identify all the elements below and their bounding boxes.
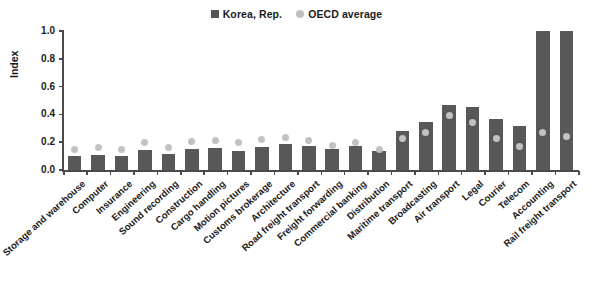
bar-korea <box>91 155 105 170</box>
dot-oecd-average <box>329 142 336 149</box>
bar-korea <box>325 149 339 170</box>
bar-korea <box>138 150 152 170</box>
bar-korea <box>560 31 574 170</box>
x-axis-tick <box>86 171 88 175</box>
x-axis-tick <box>438 171 440 175</box>
x-axis-tick <box>531 171 533 175</box>
legend-label-korea: Korea, Rep. <box>223 8 282 20</box>
chart-legend: Korea, Rep. OECD average <box>0 8 593 20</box>
x-axis-tick <box>461 171 463 175</box>
dot-oecd-average <box>446 112 453 119</box>
dot-oecd-average <box>165 144 172 151</box>
x-axis-tick <box>133 171 135 175</box>
y-axis-tick-label: 0.4 <box>21 108 55 119</box>
bar-korea <box>208 148 222 170</box>
legend-item-korea: Korea, Rep. <box>211 8 282 20</box>
plot-area <box>63 31 578 170</box>
dot-oecd-average <box>71 146 78 153</box>
bar-korea <box>162 154 176 170</box>
x-axis-tick <box>157 171 159 175</box>
dot-oecd-average <box>282 134 289 141</box>
x-axis-tick <box>203 171 205 175</box>
bar-korea <box>302 146 316 170</box>
y-axis-title: Index <box>8 51 20 78</box>
bar-korea <box>349 146 363 170</box>
y-axis-tick-label: 0.0 <box>21 164 55 175</box>
bar-korea <box>466 107 480 170</box>
y-axis-tick-label: 0.8 <box>21 53 55 64</box>
y-axis-tick-label: 0.6 <box>21 81 55 92</box>
x-axis-tick <box>414 171 416 175</box>
dot-oecd-average <box>141 139 148 146</box>
legend-item-oecd: OECD average <box>296 8 382 20</box>
dot-oecd-average <box>305 137 312 144</box>
x-axis-tick <box>344 171 346 175</box>
x-axis-tick <box>484 171 486 175</box>
bar-korea <box>489 119 503 170</box>
dot-oecd-average <box>188 138 195 145</box>
x-axis-tick <box>321 171 323 175</box>
y-axis-tick-label: 1.0 <box>21 25 55 36</box>
bar-korea <box>279 144 293 170</box>
x-axis-tick <box>250 171 252 175</box>
x-axis-tick <box>274 171 276 175</box>
x-axis-tick <box>297 171 299 175</box>
y-axis-tick-label: 0.2 <box>21 136 55 147</box>
bar-korea <box>232 151 246 170</box>
bar-korea <box>372 151 386 170</box>
bar-korea <box>185 149 199 170</box>
x-axis-tick <box>180 171 182 175</box>
dot-oecd-average <box>212 137 219 144</box>
legend-label-oecd: OECD average <box>308 8 382 20</box>
dot-oecd-average <box>516 143 523 150</box>
dot-oecd-average <box>352 139 359 146</box>
x-axis-tick <box>578 171 580 175</box>
x-axis-tick <box>227 171 229 175</box>
dot-oecd-average <box>118 146 125 153</box>
dot-oecd-average <box>258 136 265 143</box>
bar-korea <box>255 147 269 170</box>
legend-circle-marker-icon <box>296 10 304 18</box>
chart-container: Korea, Rep. OECD average Index 0.00.20.4… <box>0 0 593 283</box>
legend-square-marker-icon <box>211 10 219 18</box>
dot-oecd-average <box>95 144 102 151</box>
x-axis-tick <box>367 171 369 175</box>
x-axis-tick <box>508 171 510 175</box>
bar-korea <box>68 156 82 170</box>
dot-oecd-average <box>563 133 570 140</box>
x-axis-tick <box>391 171 393 175</box>
bar-korea <box>536 31 550 170</box>
x-axis-tick <box>63 171 65 175</box>
dot-oecd-average <box>399 135 406 142</box>
dot-oecd-average <box>376 146 383 153</box>
dot-oecd-average <box>235 139 242 146</box>
dot-oecd-average <box>493 135 500 142</box>
x-axis-tick <box>555 171 557 175</box>
bar-korea <box>115 156 129 170</box>
x-axis-tick <box>110 171 112 175</box>
